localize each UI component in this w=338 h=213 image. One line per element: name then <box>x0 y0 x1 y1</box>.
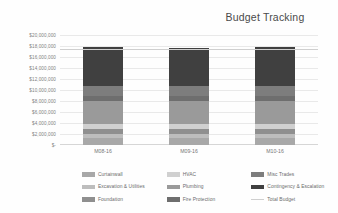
x-axis-labels: M08-16M09-16M10-16 <box>60 148 318 162</box>
bar-segment[interactable] <box>169 138 209 145</box>
bar-segment[interactable] <box>255 138 295 145</box>
bar-segment[interactable] <box>169 124 209 129</box>
bar-segment[interactable] <box>255 96 295 101</box>
y-axis-tick-label: $6,000,000 <box>32 110 56 115</box>
y-axis-tick-label: $14,000,000 <box>29 66 56 71</box>
budget-tracking-chart: Budget Tracking $20,000,000$18,000,000$1… <box>0 0 338 213</box>
legend-item[interactable]: HVAC <box>167 172 248 177</box>
legend-item[interactable]: Total Budget <box>251 197 332 202</box>
legend-label: Excavation & Utilities <box>98 184 145 189</box>
legend-swatch-icon <box>167 185 180 190</box>
y-axis-tick-label: $16,000,000 <box>29 55 56 60</box>
bar-segment[interactable] <box>255 134 295 138</box>
legend-label: Fire Protection <box>183 197 216 202</box>
legend-label: HVAC <box>183 172 196 177</box>
gridline <box>60 35 318 36</box>
y-axis-tick-label: $20,000,000 <box>29 33 56 38</box>
bar-segment[interactable] <box>255 47 295 86</box>
bar-segment[interactable] <box>169 101 209 124</box>
bar-segment[interactable] <box>255 86 295 96</box>
legend-item[interactable]: Curtainwall <box>82 172 163 177</box>
x-axis-tick-label: M10-16 <box>266 148 284 154</box>
chart-legend: CurtainwallHVACMisc TradesExcavation & U… <box>82 168 332 208</box>
legend-swatch-icon <box>251 185 264 190</box>
bar-segment[interactable] <box>169 134 209 138</box>
y-axis-labels: $20,000,000$18,000,000$16,000,000$14,000… <box>8 30 56 150</box>
bar-segment[interactable] <box>255 129 295 134</box>
bar-segment[interactable] <box>255 101 295 124</box>
legend-swatch-icon <box>82 172 95 177</box>
bar-segment[interactable] <box>169 129 209 134</box>
legend-swatch-icon <box>167 172 180 177</box>
legend-label: Curtainwall <box>98 172 123 177</box>
legend-label: Contingency & Escalation <box>267 184 324 189</box>
legend-label: Foundation <box>98 197 123 202</box>
bar-segment[interactable] <box>83 129 123 134</box>
legend-swatch-icon <box>251 172 264 177</box>
bar-segment[interactable] <box>83 124 123 129</box>
y-axis-tick-label: $2,000,000 <box>32 132 56 137</box>
y-axis-tick-label: $4,000,000 <box>32 121 56 126</box>
y-axis-tick-label: $- <box>52 143 56 148</box>
legend-item[interactable]: Plumbing <box>167 184 248 189</box>
x-axis-tick-label: M08-16 <box>94 148 112 154</box>
bar-segment[interactable] <box>83 101 123 124</box>
legend-swatch-icon <box>82 185 95 190</box>
y-axis-tick-label: $12,000,000 <box>29 77 56 82</box>
bar-M10-16[interactable] <box>255 47 295 145</box>
legend-swatch-icon <box>251 199 264 201</box>
total-budget-line <box>60 49 318 50</box>
bar-segment[interactable] <box>83 96 123 101</box>
legend-item[interactable]: Contingency & Escalation <box>251 184 332 189</box>
y-axis-tick-label: $18,000,000 <box>29 44 56 49</box>
bar-segment[interactable] <box>83 47 123 86</box>
y-axis-tick-label: $8,000,000 <box>32 99 56 104</box>
bar-segment[interactable] <box>83 134 123 138</box>
legend-item[interactable]: Misc Trades <box>251 172 332 177</box>
bar-segment[interactable] <box>169 48 209 85</box>
bar-segment[interactable] <box>255 124 295 129</box>
legend-label: Misc Trades <box>267 172 294 177</box>
chart-title: Budget Tracking <box>200 11 330 23</box>
bar-segment[interactable] <box>169 86 209 96</box>
y-axis-tick-label: $10,000,000 <box>29 88 56 93</box>
legend-item[interactable]: Excavation & Utilities <box>82 184 163 189</box>
plot-area <box>60 35 318 145</box>
legend-item[interactable]: Fire Protection <box>167 197 248 202</box>
legend-label: Total Budget <box>267 197 295 202</box>
bar-segment[interactable] <box>83 138 123 145</box>
legend-label: Plumbing <box>183 184 204 189</box>
bar-M09-16[interactable] <box>169 48 209 145</box>
legend-item[interactable]: Foundation <box>82 197 163 202</box>
bar-segment[interactable] <box>83 86 123 96</box>
legend-swatch-icon <box>167 197 180 202</box>
bar-segment[interactable] <box>169 96 209 101</box>
x-axis-tick-label: M09-16 <box>180 148 198 154</box>
legend-swatch-icon <box>82 197 95 202</box>
bar-M08-16[interactable] <box>83 47 123 145</box>
